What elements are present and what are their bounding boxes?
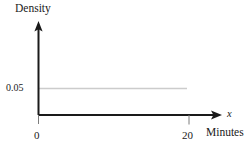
y-tick-label-0.05: 0.05 — [6, 83, 24, 93]
x-tick-label-20: 20 — [182, 130, 193, 141]
density-chart-figure: Density 0.05 0 20 x Minutes — [0, 0, 249, 154]
y-axis-label: Density — [15, 3, 51, 15]
x-tick-label-0: 0 — [34, 130, 40, 141]
x-axis-variable-label: x — [227, 109, 232, 120]
x-axis-label: Minutes — [206, 127, 244, 139]
